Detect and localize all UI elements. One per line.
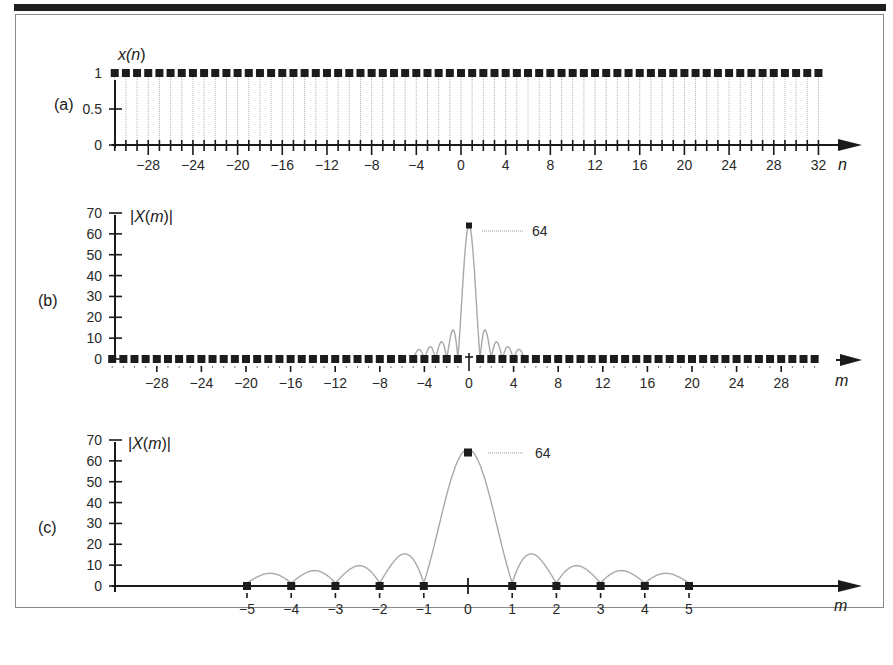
y-tick-label: 30 [86,515,102,531]
y-ticks-a: 10.50 [83,65,122,153]
x-tick-label: 4 [502,157,510,173]
y-tick-label: 1 [94,65,102,81]
y-axis-title-a: x(n) [117,46,146,63]
sample-marker [222,69,230,77]
panel-label-b: (b) [38,292,58,309]
sample-marker [602,69,610,77]
y-tick-label: 0 [94,351,102,367]
y-tick-label: 50 [86,247,102,263]
sample-marker [209,355,217,363]
x-tick-label: 32 [811,157,827,173]
y-tick-label: 10 [86,557,102,573]
y-tick-label: 60 [86,453,102,469]
sample-marker [565,355,573,363]
x-tick-label: −16 [270,157,294,173]
sample-marker [521,355,529,363]
sample-marker [211,69,219,77]
x-tick-label: −20 [234,375,258,391]
sample-marker [131,355,139,363]
sample-marker [379,69,387,77]
sample-marker [666,355,674,363]
sample-marker [420,355,428,363]
peak-marker [466,223,472,229]
sample-marker [703,69,711,77]
sample-marker [331,355,339,363]
x-tick-label: 8 [546,157,554,173]
panel-a: (a) x(n) 10.50 −28−24−20−16−12−8−4048121… [54,46,862,173]
sample-marker [142,355,150,363]
sample-marker [759,69,767,77]
x-tick-label: −24 [181,157,205,173]
x-tick-label: 20 [677,157,693,173]
y-tick-label: 40 [86,495,102,511]
sample-marker [502,69,510,77]
x-tick-label: −1 [416,601,432,617]
sample-marker [677,355,685,363]
sample-marker [755,355,763,363]
sample-marker [792,69,800,77]
sample-marker [814,69,822,77]
y-tick-label: 70 [86,432,102,448]
y-tick-label: 30 [86,288,102,304]
sample-marker [186,355,194,363]
y-tick-label: 70 [86,205,102,221]
sample-marker [744,355,752,363]
sample-marker [569,69,577,77]
sample-marker [546,69,554,77]
sample-marker [264,355,272,363]
sample-marker [387,355,395,363]
x-tick-label: 12 [595,375,611,391]
sample-marker [189,69,197,77]
sample-marker [368,69,376,77]
sample-marker [412,69,420,77]
y-tick-label: 0 [94,578,102,594]
sample-marker [287,355,295,363]
sample-marker [435,69,443,77]
sample-marker [803,69,811,77]
sample-marker [599,355,607,363]
figure-canvas: (a) x(n) 10.50 −28−24−20−16−12−8−4048121… [0,0,893,665]
sample-marker [175,355,183,363]
y-tick-label: 50 [86,474,102,490]
sample-marker [144,69,152,77]
sample-marker [788,355,796,363]
y-tick-label: 40 [86,268,102,284]
sample-marker [376,582,384,590]
x-tick-label: −3 [327,601,343,617]
x-tick-label: 24 [729,375,745,391]
x-tick-label: 28 [773,375,789,391]
sample-marker [309,355,317,363]
y-ticks-c: 706050403020100 [86,432,122,594]
x-tick-label: −16 [279,375,303,391]
sample-marker [577,355,585,363]
x-tick-label: 16 [640,375,656,391]
y-tick-label: 0.5 [83,101,103,117]
x-axis-arrow-a [838,139,862,151]
sample-marker [278,69,286,77]
sample-marker [781,69,789,77]
sample-marker [200,69,208,77]
x-tick-label: −12 [315,157,339,173]
sample-marker [301,69,309,77]
spectrum-curve-c [247,449,689,583]
peak-annotation-c: 64 [535,445,551,461]
spectrum-curve-b [413,226,524,360]
x-ticks-b: −28−24−20−16−12−8−40481216202428 [145,366,789,391]
x-tick-label: −4 [408,157,424,173]
x-tick-label: −28 [136,157,160,173]
sample-marker [167,69,175,77]
sample-marker [800,355,808,363]
sample-marker [535,69,543,77]
x-tick-label: −2 [372,601,388,617]
sample-marker [420,582,428,590]
panel-label-a: (a) [54,96,74,113]
x-tick-label: 0 [465,375,473,391]
sample-marker [685,582,693,590]
sample-marker [641,582,649,590]
sample-marker [331,582,339,590]
sample-marker [498,355,506,363]
x-tick-label: 2 [553,601,561,617]
panel-label-c: (c) [38,519,57,536]
sample-marker [231,355,239,363]
y-tick-label: 60 [86,226,102,242]
